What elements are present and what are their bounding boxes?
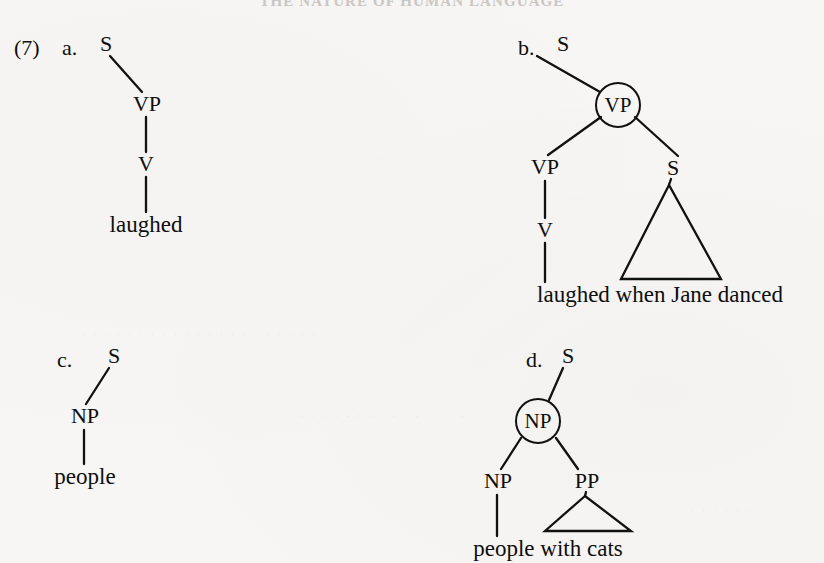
edge-c-S-NP [86, 368, 109, 404]
tree-b-node-V: V [537, 219, 553, 241]
tree-d-node-NP-circled: NP [515, 398, 561, 444]
edge-d-NPc-PP [556, 438, 578, 469]
tree-c-node-S: S [108, 345, 120, 367]
example-number: (7) [14, 35, 40, 61]
tree-c-node-NP: NP [71, 405, 99, 427]
tree-a-node-VP: VP [133, 93, 161, 115]
tree-b-node-S-top: S [557, 33, 569, 55]
tree-c-letter: c. [57, 347, 72, 373]
textbook-page: THE NATURE OF HUMAN LANGUAGE . . . . . .… [0, 0, 824, 563]
edge-b-S-VP [537, 56, 600, 92]
tree-b-node-VP-circled: VP [595, 82, 641, 128]
tree-a-leaf: laughed [110, 213, 183, 236]
edge-b-VPc-VP [548, 117, 601, 155]
tree-a-letter: a. [62, 35, 77, 61]
edge-d-NPc-NP [501, 438, 521, 469]
tree-a-node-V: V [138, 153, 154, 175]
tree-a-node-S: S [100, 33, 112, 55]
tree-d-leaf: people with cats [473, 537, 622, 560]
tree-b-node-VP: VP [531, 156, 559, 178]
tree-c-leaf: people [54, 465, 115, 488]
tree-b-node-S: S [667, 157, 679, 179]
page-bleed-mark: . . . . . . . . . . . . . . . . . . . . … [70, 322, 317, 339]
edge-d-S-NP [549, 368, 563, 400]
page-bleed-mark: . . . . . . [690, 498, 753, 515]
b-triangle [621, 185, 721, 279]
tree-b-letter: b. [518, 35, 535, 61]
running-header: THE NATURE OF HUMAN LANGUAGE [0, 0, 824, 10]
tree-d-node-NP: NP [484, 470, 512, 492]
tree-b-leaf: laughed when Jane danced [537, 283, 783, 306]
d-triangle [545, 496, 631, 531]
tree-d-node-PP: PP [575, 470, 599, 492]
page-bleed-mark: . . . . . . . . . . . . . . . . [300, 404, 478, 421]
edge-a-S-VP [110, 56, 142, 92]
tree-d-node-S: S [562, 345, 574, 367]
tree-d-letter: d. [526, 347, 543, 373]
edge-b-VPc-S [635, 117, 678, 156]
